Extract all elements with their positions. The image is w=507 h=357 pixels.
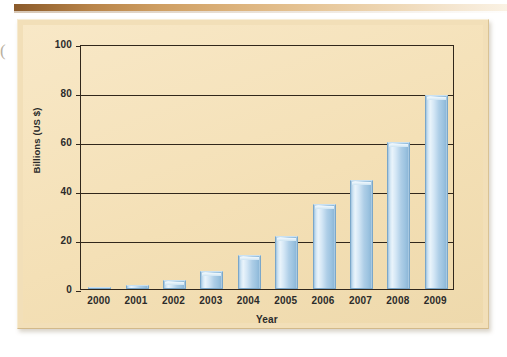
x-axis-tick-label: 2000 <box>80 295 117 306</box>
x-axis-tick-label: 2005 <box>267 295 304 306</box>
bar-chart: Billions (US $) 020406080100 20002001200… <box>23 25 485 325</box>
bar-top-highlight <box>277 238 296 241</box>
bar-top-highlight <box>202 273 221 276</box>
bar-top-highlight <box>427 97 446 100</box>
bar <box>387 142 410 289</box>
y-axis-tick-label: 0 <box>44 284 72 295</box>
scan-top-band <box>14 4 507 11</box>
bar <box>88 287 111 289</box>
bar-top-highlight <box>389 144 408 147</box>
bar <box>238 255 261 289</box>
x-axis-tick-label: 2009 <box>417 295 454 306</box>
figure-frame: Billions (US $) 020406080100 20002001200… <box>17 19 489 329</box>
x-axis-tick-label: 2003 <box>192 295 229 306</box>
x-axis-tick-label: 2004 <box>230 295 267 306</box>
y-axis-tick-label: 20 <box>44 235 72 246</box>
bar <box>126 285 149 289</box>
bar <box>275 236 298 289</box>
figure-page: ( Billions (US $) 020406080100 200020012… <box>0 0 507 357</box>
y-axis-tick-label: 60 <box>44 137 72 148</box>
y-axis-tick-label: 40 <box>44 186 72 197</box>
bar <box>313 204 336 289</box>
page-edge-artifact: ( <box>0 38 7 64</box>
y-axis-tick-mark <box>76 291 81 292</box>
bar-top-highlight <box>352 182 371 185</box>
bar <box>200 271 223 289</box>
y-axis-tick-label: 80 <box>44 88 72 99</box>
x-axis-tick-label: 2008 <box>379 295 416 306</box>
scan-top-band-shadow <box>14 11 507 13</box>
x-axis-tick-label: 2007 <box>342 295 379 306</box>
y-axis-tick-label: 100 <box>44 39 72 50</box>
bar <box>163 280 186 289</box>
x-axis-title: Year <box>80 314 454 325</box>
figure-inner-panel: Billions (US $) 020406080100 20002001200… <box>23 25 483 323</box>
bar-top-highlight <box>240 257 259 260</box>
plot-area <box>80 45 454 290</box>
x-axis-tick-label: 2001 <box>117 295 154 306</box>
x-axis-tick-label: 2002 <box>155 295 192 306</box>
y-axis-title: Billions (US $) <box>31 81 42 201</box>
bar <box>350 180 373 289</box>
bar-top-highlight <box>315 206 334 209</box>
x-axis-tick-label: 2006 <box>304 295 341 306</box>
bar-top-highlight <box>165 282 184 285</box>
bars-layer <box>81 46 453 289</box>
bar <box>425 95 448 289</box>
